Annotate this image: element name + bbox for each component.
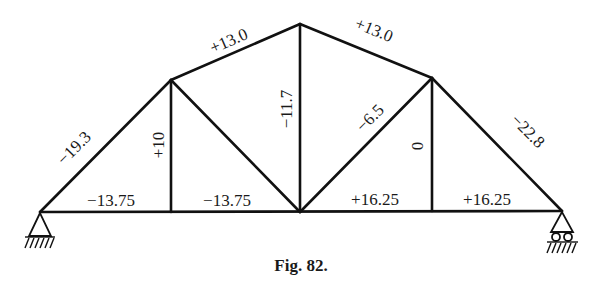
label-vertical-left: +10 [149,132,168,159]
label-right-rafter: −22.8 [507,110,548,151]
label-diagonal-right: −6.5 [352,100,387,135]
label-bottom-chord-3: +16.25 [351,190,399,209]
pinned-support-icon [25,213,55,248]
label-vertical-right: 0 [408,142,427,151]
label-bottom-chord-2: −13.75 [203,191,251,210]
label-bottom-chord-4: +16.25 [463,190,511,209]
roller-support-icon [547,212,578,253]
truss-diagram: −19.3 +13.0 +13.0 −22.8 +10 −11.7 −6.5 0… [0,0,602,287]
label-vertical-center: −11.7 [277,89,296,128]
label-bottom-chord-1: −13.75 [87,191,135,210]
label-top-chord-left: +13.0 [207,24,251,57]
label-top-chord-right: +13.0 [352,14,396,46]
figure-caption: Fig. 82. [0,256,602,276]
